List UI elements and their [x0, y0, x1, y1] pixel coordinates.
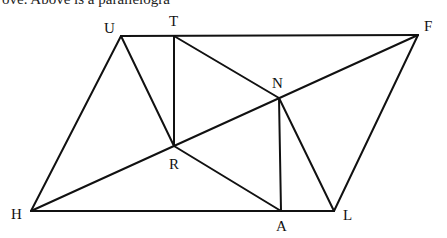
segment-UR: [121, 36, 174, 146]
segment-UH: [31, 36, 121, 211]
vertex-label-L: L: [343, 207, 352, 223]
segment-NL: [279, 98, 334, 211]
segment-NA: [279, 98, 281, 211]
segment-HF: [31, 35, 418, 211]
vertex-label-U: U: [104, 20, 115, 36]
vertex-label-N: N: [272, 75, 283, 91]
segment-LF: [334, 35, 418, 211]
vertex-label-R: R: [169, 156, 179, 172]
segments: [31, 35, 418, 211]
parallelogram-diagram: UTFNRHAL: [0, 0, 447, 238]
vertex-label-H: H: [11, 206, 22, 222]
segment-TN: [174, 36, 279, 98]
vertex-label-T: T: [169, 13, 178, 29]
segment-UF: [121, 35, 418, 36]
vertex-label-A: A: [276, 218, 287, 234]
vertex-label-F: F: [424, 18, 432, 34]
segment-RA: [174, 146, 281, 211]
